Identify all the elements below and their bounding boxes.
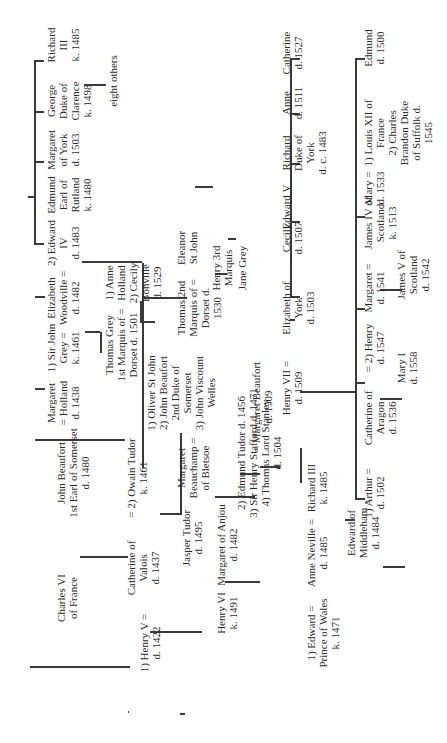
node-catherine: Catherine d. 1527 (280, 23, 304, 83)
henry-vii-children-bar-2 (355, 59, 357, 222)
york-sib-tick-george (34, 112, 44, 114)
node-margaret-tudor: Margaret = d. 1541 (362, 253, 386, 323)
york-sib-tick-richard (34, 61, 44, 63)
node-edward-prince-wales: 1) Edward = Prince of Wales k. 1471 (305, 588, 341, 678)
node-eleanor-st-john: Eleanor St John (175, 218, 199, 278)
node-elizabeth-york: Elizabeth of York d. 1503 (280, 273, 316, 343)
grey-stem (35, 297, 45, 299)
node-james-v: James V of Scotland d. 1542 (395, 235, 431, 315)
node-henry-v: 1) Henry V = d. 1422 (138, 603, 162, 683)
node-thomas-grey-wives: 1) Anne Holland 2) Cecily Bonville d. 15… (103, 253, 163, 313)
henry-vii-children-bar (355, 222, 357, 500)
node-edward-iv: 2) Edward IV d. 1483 (45, 213, 81, 273)
node-henry-viii: = 2) Henry d. 1547 (362, 313, 386, 383)
tudor-left-bar (180, 714, 185, 716)
grey-woodville-child-line (85, 332, 100, 334)
margaret-beaufort-child (300, 448, 302, 483)
henry-vii-down (300, 392, 355, 394)
eleanor-line (195, 187, 213, 189)
york-sib-tick-edmund (28, 197, 36, 199)
node-richard-iii-top: Richard III k. 1485 (45, 15, 81, 75)
node-henry-3rd-marquis: Henry 3rd Marquis (210, 233, 234, 303)
grey-woodville-child-h (100, 332, 102, 353)
henry-iv-left-bar (128, 712, 129, 714)
family-tree-diagram: Richard III k. 1485 George Duke of Clare… (0, 0, 447, 743)
node-thomas-grey-1st: Thomas Grey 1st Marquis of = Dorset d. 1… (103, 305, 139, 385)
york-siblings-bar (34, 60, 36, 245)
node-sir-john-grey: 1) Sir John Grey = k. 1461 (45, 318, 81, 378)
node-charles-vi: Charles VI of France (55, 563, 79, 633)
node-mary-husbands: 1) Louis XII of France 2) Charles Brando… (362, 83, 434, 183)
catherine-owain-line (160, 514, 180, 516)
node-margaret-beaufort: = Margaret Beaufort d. 1509 (250, 357, 274, 457)
node-john-beaufort: John Beaufort 1st Earl of Somerset d. 14… (55, 418, 91, 528)
node-beauchamp-husbands: 1) Oliver St John 2) John Beaufort 2nd D… (145, 343, 217, 443)
node-catherine-valois: Catherine of Valois d. 1437 (125, 533, 161, 603)
node-eight-others: eight others (107, 41, 119, 121)
node-arthur: 1) Arthur = d. 1502 (362, 458, 386, 528)
node-henry-vii: Henry VII = d. 1509 (280, 353, 304, 423)
york-sib-tick-edward (34, 244, 44, 246)
node-edmund: Edmund d. 1500 (362, 18, 386, 78)
node-owain-tudor: = 2) Owain Tudor k. 1461 (125, 428, 149, 528)
node-henry-vi: Henry VI k. 1491 (215, 583, 239, 643)
middleham-line (383, 567, 405, 569)
node-jane-grey: Jane Grey (236, 233, 248, 303)
henry-iv-stem (30, 667, 130, 669)
charles-vi-stem (80, 557, 128, 559)
york-sib-tick-margaret (34, 162, 44, 164)
node-catherine-aragon: Catherine of Aragon d. 1536 (362, 383, 398, 453)
node-margaret-anjou: Margaret of Anjou d. 1482 (215, 495, 239, 595)
node-mary-i: Mary I d. 1558 (395, 338, 419, 398)
holland-stem (35, 389, 45, 391)
node-margaret-beauchamp: Margaret Beauchamp = of Bletsoe (175, 433, 211, 503)
node-jasper-tudor: Jasper Tudor d. 1495 (180, 503, 204, 573)
node-richard-iii: Richard III k. 1485 (305, 448, 329, 528)
